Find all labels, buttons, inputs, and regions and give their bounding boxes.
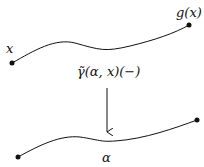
diagram-canvas bbox=[0, 0, 204, 167]
top-path-curve bbox=[12, 25, 189, 63]
label-alpha: α bbox=[102, 151, 111, 164]
label-gamma-tilde: γ̃(α, x)(−) bbox=[77, 65, 140, 78]
label-g-of-x: g(x) bbox=[176, 6, 202, 19]
bottom-end-point bbox=[195, 118, 200, 123]
top-end-point bbox=[187, 23, 192, 28]
top-start-point bbox=[10, 61, 15, 66]
bottom-start-point bbox=[16, 155, 21, 160]
label-x: x bbox=[6, 42, 13, 55]
